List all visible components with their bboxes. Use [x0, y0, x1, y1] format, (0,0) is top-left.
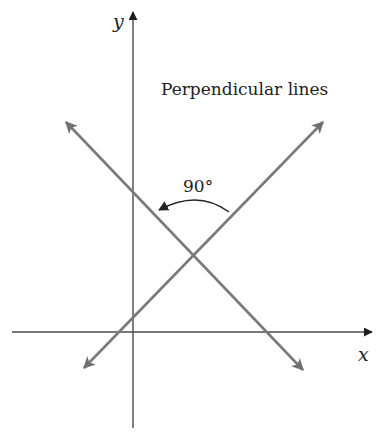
angle-label: 90° — [183, 176, 213, 196]
diagram-title: Perpendicular lines — [161, 79, 328, 99]
x-axis-label: x — [358, 343, 369, 365]
right-angle-arc-arrow — [159, 200, 229, 212]
perpendicular-lines-diagram: y x 90° Perpendicular lines — [0, 0, 382, 442]
decreasing-line — [66, 122, 303, 370]
increasing-line — [84, 122, 323, 368]
y-axis-label: y — [112, 10, 124, 32]
